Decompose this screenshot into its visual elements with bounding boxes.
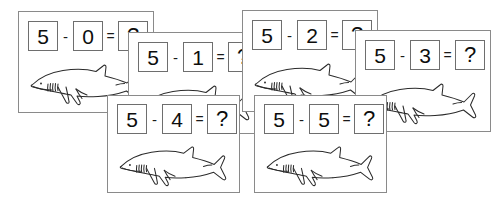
minus-operator: -	[150, 111, 159, 128]
equals-operator: =	[106, 28, 115, 44]
answer-box[interactable]: ?	[207, 104, 237, 134]
minus-operator: -	[285, 27, 294, 44]
subtrahend-box: 3	[410, 40, 440, 70]
equals-operator: =	[216, 49, 225, 65]
equation-row: 5-2=?	[252, 20, 372, 50]
minus-operator: -	[398, 47, 407, 64]
equation-row: 5-5=?	[264, 104, 384, 134]
subtrahend-box: 1	[183, 42, 213, 72]
subtrahend-box: 2	[297, 20, 327, 50]
minuend-box: 5	[138, 42, 168, 72]
minuend-box: 5	[264, 104, 294, 134]
flashcard[interactable]: 5-4=?	[107, 95, 240, 193]
minuend-box: 5	[365, 40, 395, 70]
equals-operator: =	[443, 47, 452, 63]
minus-operator: -	[61, 28, 70, 45]
shark-icon	[263, 138, 383, 187]
equation-row: 5-4=?	[117, 104, 237, 134]
answer-box[interactable]: ?	[354, 104, 384, 134]
subtrahend-box: 4	[162, 104, 192, 134]
equals-operator: =	[330, 27, 339, 43]
equation-row: 5-3=?	[365, 40, 485, 70]
flashcard-worksheet: 5-0=?5-1=?5-2=?5-3=?5-4=?5-5=?	[0, 0, 497, 206]
shark-icon	[116, 138, 236, 187]
answer-box[interactable]: ?	[455, 40, 485, 70]
minuend-box: 5	[117, 104, 147, 134]
equals-operator: =	[195, 111, 204, 127]
subtrahend-box: 0	[73, 21, 103, 51]
minus-operator: -	[171, 49, 180, 66]
minuend-box: 5	[252, 20, 282, 50]
minuend-box: 5	[28, 21, 58, 51]
equals-operator: =	[342, 111, 351, 127]
equation-row: 5-1=?	[138, 42, 258, 72]
subtrahend-box: 5	[309, 104, 339, 134]
minus-operator: -	[297, 111, 306, 128]
flashcard[interactable]: 5-5=?	[254, 95, 387, 193]
